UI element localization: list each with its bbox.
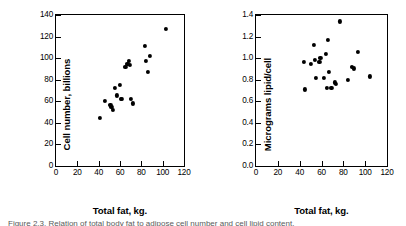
x-tick-label-left: 60 [116,169,125,177]
x-tick-label-left: 0 [54,169,58,177]
plot-area-right: 0.00.20.40.60.81.01.21.4020406080100120 [256,15,387,166]
data-point [164,27,168,31]
data-point [355,50,359,54]
data-point [352,66,356,70]
y-tick-label-right: 0.6 [242,97,253,105]
y-tick-right [256,37,261,38]
y-tick-label-right: 0.2 [242,140,253,148]
data-point [98,116,102,120]
data-point [312,43,316,47]
y-tick-label-left: 100 [40,54,53,62]
y-tick-label-right: 1.2 [242,33,253,41]
x-tick-right [322,161,323,166]
y-tick-label-right: 1.0 [242,54,253,62]
data-point [103,99,107,103]
x-tick-left [141,161,142,166]
y-tick-right [256,101,261,102]
x-tick-label-left: 80 [137,169,146,177]
data-point [317,60,321,64]
figure-caption: Figure 2.3. Relation of total body fat t… [8,219,400,226]
chart-panel-right: 0.00.20.40.60.81.01.21.4020406080100120 … [203,0,406,226]
x-tick-label-left: 20 [73,169,82,177]
x-axis-title-left: Total fat, kg. [56,205,184,216]
x-tick-label-right: 0 [254,169,258,177]
x-tick-label-left: 120 [177,169,190,177]
y-tick-right [256,144,261,145]
data-point [308,62,312,66]
y-tick-right [256,58,261,59]
x-tick-left [163,161,164,166]
x-tick-label-right: 60 [317,169,326,177]
data-point [302,60,306,64]
plot-frame-left: 020406080100120140020406080100120 Cell n… [55,14,185,167]
x-tick-left [120,161,121,166]
y-tick-right [256,80,261,81]
data-point [318,56,322,60]
x-tick-left [99,161,100,166]
y-tick-left [56,15,61,16]
data-point [314,75,318,79]
y-tick-label-right: 1.4 [242,11,253,19]
y-tick-label-left: 80 [44,76,53,84]
y-tick-label-right: 0.8 [242,76,253,84]
data-point [326,38,330,42]
data-point [324,52,328,56]
x-tick-right [343,161,344,166]
x-tick-label-right: 120 [380,169,393,177]
data-point [367,74,371,78]
x-tick-right [300,161,301,166]
y-tick-label-left: 140 [40,11,53,19]
data-point [327,70,331,74]
x-tick-right [278,161,279,166]
data-point [131,101,135,105]
data-point [118,83,122,87]
y-tick-label-right: 0.0 [242,162,253,170]
figure-container: 020406080100120140020406080100120 Cell n… [0,0,406,226]
data-point [334,82,338,86]
y-axis-title-left: Cell number, billions [61,50,72,160]
y-tick-label-left: 120 [40,33,53,41]
data-point [144,59,148,63]
plot-area-left: 020406080100120140020406080100120 [56,15,184,166]
data-point [120,97,124,101]
data-point [113,86,117,90]
x-tick-label-left: 100 [156,169,169,177]
data-point [322,76,326,80]
data-point [128,63,132,67]
data-point [129,96,133,100]
x-tick-right [365,161,366,166]
x-tick-label-right: 20 [273,169,282,177]
y-tick-label-left: 0 [49,162,53,170]
data-point [146,70,150,74]
y-tick-right [256,166,261,167]
x-tick-label-right: 80 [339,169,348,177]
y-tick-left [56,37,61,38]
chart-panel-left: 020406080100120140020406080100120 Cell n… [0,0,203,226]
data-point [303,87,307,91]
data-point [142,44,146,48]
plot-frame-right: 0.00.20.40.60.81.01.21.4020406080100120 … [255,14,388,167]
x-tick-label-right: 40 [295,169,304,177]
x-tick-left [77,161,78,166]
y-tick-label-right: 0.4 [242,119,253,127]
data-point [148,54,152,58]
x-axis-title-right: Total fat, kg. [256,205,387,216]
x-tick-label-right: 100 [359,169,372,177]
y-tick-label-left: 60 [44,97,53,105]
data-point [329,86,333,90]
y-axis-title-right: Micrograms lipid/cell [262,50,273,160]
y-tick-left [56,166,61,167]
x-tick-label-left: 40 [94,169,103,177]
data-point [338,19,342,23]
y-tick-label-left: 40 [44,119,53,127]
y-tick-right [256,15,261,16]
data-point [346,78,350,82]
y-tick-label-left: 20 [44,140,53,148]
data-point [110,108,114,112]
y-tick-right [256,123,261,124]
